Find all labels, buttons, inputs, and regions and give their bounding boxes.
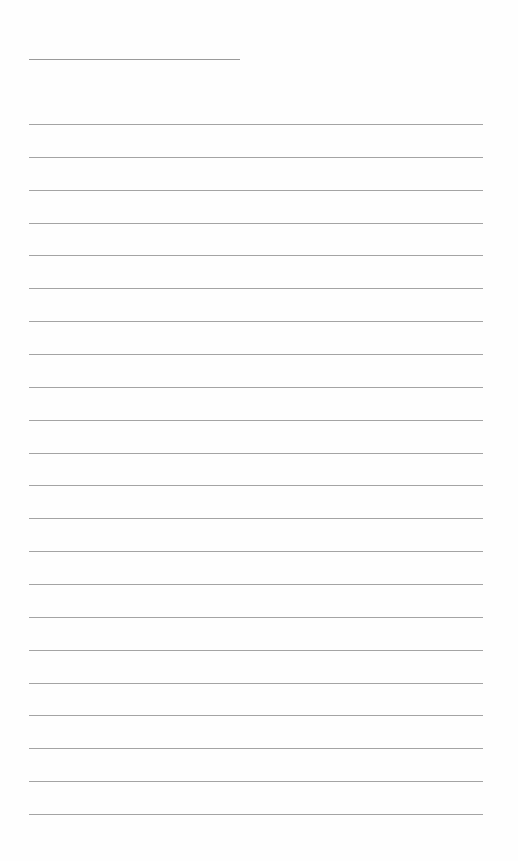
lined-page bbox=[0, 0, 518, 861]
title-write-line bbox=[29, 59, 240, 60]
ruled-line bbox=[29, 157, 483, 158]
ruled-line bbox=[29, 255, 483, 256]
ruled-line bbox=[29, 551, 483, 552]
ruled-line bbox=[29, 354, 483, 355]
ruled-line bbox=[29, 518, 483, 519]
ruled-line bbox=[29, 288, 483, 289]
ruled-line bbox=[29, 321, 483, 322]
ruled-line bbox=[29, 453, 483, 454]
ruled-line bbox=[29, 387, 483, 388]
ruled-line bbox=[29, 485, 483, 486]
ruled-line bbox=[29, 223, 483, 224]
ruled-line bbox=[29, 617, 483, 618]
ruled-line bbox=[29, 781, 483, 782]
ruled-line bbox=[29, 124, 483, 125]
ruled-line bbox=[29, 683, 483, 684]
ruled-line bbox=[29, 190, 483, 191]
ruled-line bbox=[29, 715, 483, 716]
ruled-line bbox=[29, 420, 483, 421]
ruled-line bbox=[29, 650, 483, 651]
ruled-line bbox=[29, 748, 483, 749]
ruled-line bbox=[29, 814, 483, 815]
ruled-line bbox=[29, 584, 483, 585]
